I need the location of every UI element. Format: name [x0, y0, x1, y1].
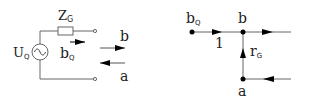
arrow-right-icon: [262, 29, 273, 35]
node-b-label: b: [238, 10, 247, 26]
impedance-subscript: G: [67, 15, 73, 24]
edge-a-b-label: rG: [250, 43, 262, 60]
node-bQ: [190, 30, 195, 35]
diagram-canvas: ZG UQ bQ b a bQ b a: [0, 0, 309, 100]
signal-flow-graph: bQ b a 1 rG: [186, 10, 291, 99]
incoming-wave-label: a: [120, 68, 128, 84]
impedance-resistor: [58, 27, 73, 35]
source-wave-label: bQ: [60, 45, 75, 62]
outgoing-wave-label: b: [120, 28, 129, 44]
ac-source-icon: [32, 44, 48, 60]
arrow-left-icon: [263, 76, 274, 82]
edge-bQ-b-label: 1: [215, 35, 224, 51]
arrow-up-icon: [240, 48, 246, 58]
terminal-bottom: [93, 77, 96, 80]
node-b: [241, 30, 246, 35]
impedance-label: ZG: [58, 8, 73, 24]
source-label: UQ: [13, 45, 30, 61]
node-a: [241, 77, 246, 82]
node-bQ-label: bQ: [186, 10, 201, 27]
source-circuit: ZG UQ bQ b a: [13, 8, 129, 84]
node-a-label: a: [238, 83, 246, 99]
terminal-top: [93, 29, 96, 32]
